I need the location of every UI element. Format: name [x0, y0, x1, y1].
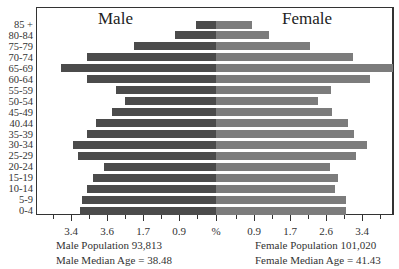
male-bar [73, 141, 216, 149]
x-tick-label: 2.6 [311, 225, 341, 237]
female-bar [216, 31, 269, 39]
female-bar [216, 174, 338, 182]
female-bar [216, 152, 356, 160]
x-tick [89, 215, 90, 219]
x-tick-label: 3.4 [56, 225, 86, 237]
male-bar [87, 130, 216, 138]
male-median-age: Male Median Age = 38.48 [56, 254, 172, 266]
male-bar [112, 108, 216, 116]
age-group-label: 15-19 [0, 172, 33, 183]
male-title: Male [98, 9, 133, 29]
age-group-label: 65-69 [0, 63, 33, 74]
age-group-label: 20-24 [0, 161, 33, 172]
x-tick [161, 215, 162, 219]
age-group-label: 50-54 [0, 96, 33, 107]
female-bar [216, 163, 330, 171]
x-tick-label: 0.9 [239, 225, 269, 237]
male-bar [87, 75, 216, 83]
age-group-label: 75-79 [0, 41, 33, 52]
female-bar [216, 42, 310, 50]
female-median-age: Female Median Age = 41.43 [255, 254, 381, 266]
x-tick [362, 215, 363, 221]
male-bar [82, 196, 216, 204]
male-bar [61, 64, 216, 72]
x-tick [272, 215, 273, 219]
male-bar [93, 174, 216, 182]
x-tick-label: 1.7 [128, 225, 158, 237]
female-population: Female Population 101,020 [255, 239, 376, 251]
x-tick [71, 215, 72, 221]
age-group-label: 85 + [0, 19, 33, 30]
age-group-label: 10-14 [0, 183, 33, 194]
x-tick [143, 215, 144, 221]
female-bar [216, 75, 370, 83]
male-population: Male Population 93,813 [56, 239, 162, 251]
x-tick [197, 215, 198, 219]
age-group-label: 55-59 [0, 85, 33, 96]
female-title: Female [282, 9, 332, 29]
x-tick [125, 215, 126, 219]
age-group-label: 40.44 [0, 118, 33, 129]
male-bar [134, 42, 216, 50]
female-bar [216, 141, 367, 149]
female-bar [216, 86, 331, 94]
x-tick [179, 215, 180, 221]
male-bar [125, 97, 216, 105]
male-bar [96, 119, 216, 127]
x-tick [380, 215, 381, 219]
male-bar [80, 207, 216, 215]
age-group-label: 45-49 [0, 107, 33, 118]
x-tick-label: 0.9 [164, 225, 194, 237]
female-bar [216, 207, 346, 215]
male-bar [78, 152, 216, 160]
x-tick [53, 215, 54, 219]
x-tick [216, 215, 217, 221]
age-group-label: 25-29 [0, 150, 33, 161]
age-group-label: 5-9 [0, 194, 33, 205]
age-group-label: 0-4 [0, 205, 33, 216]
x-tick [290, 215, 291, 221]
female-bar [216, 119, 348, 127]
x-tick-label: 1.7 [275, 225, 305, 237]
age-group-label: 30-34 [0, 139, 33, 150]
x-tick [344, 215, 345, 219]
x-tick [254, 215, 255, 221]
x-tick-label: % [201, 225, 231, 237]
male-bar [196, 21, 216, 29]
x-tick [107, 215, 108, 221]
female-bar [216, 130, 354, 138]
male-bar [104, 163, 216, 171]
x-tick-label: 3.6 [92, 225, 122, 237]
male-bar [175, 31, 216, 39]
female-bar [216, 196, 346, 204]
female-bar [216, 21, 252, 29]
male-bar [87, 185, 216, 193]
female-bar [216, 97, 318, 105]
age-group-label: 70-74 [0, 52, 33, 63]
female-bar [216, 108, 332, 116]
female-bar [216, 185, 335, 193]
x-tick [308, 215, 309, 219]
female-bar [216, 64, 393, 72]
age-group-label: 60-64 [0, 74, 33, 85]
x-tick [236, 215, 237, 219]
x-tick [326, 215, 327, 221]
age-group-label: 80-84 [0, 30, 33, 41]
age-group-label: 35-39 [0, 129, 33, 140]
male-bar [116, 86, 216, 94]
x-tick-label: 3.4 [347, 225, 377, 237]
female-bar [216, 53, 353, 61]
male-bar [87, 53, 216, 61]
